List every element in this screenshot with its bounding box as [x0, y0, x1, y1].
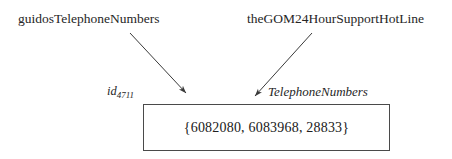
- value-box-content: {6082080, 6083968, 28833}: [184, 120, 349, 136]
- object-identifier-label: id4711: [107, 85, 134, 98]
- value-box: {6082080, 6083968, 28833}: [143, 104, 390, 151]
- diagram-canvas: guidosTelephoneNumbers theGOM24HourSuppo…: [0, 0, 452, 159]
- object-identifier-base: id: [107, 84, 117, 98]
- type-label-telephone-numbers: TelephoneNumbers: [268, 85, 368, 98]
- left-arrow: [130, 33, 186, 93]
- object-identifier-subscript: 4711: [117, 90, 134, 100]
- source-label-guidos-telephone-numbers: guidosTelephoneNumbers: [18, 12, 160, 26]
- source-label-the-gom-24-hour-support-hotline: theGOM24HourSupportHotLine: [247, 12, 424, 26]
